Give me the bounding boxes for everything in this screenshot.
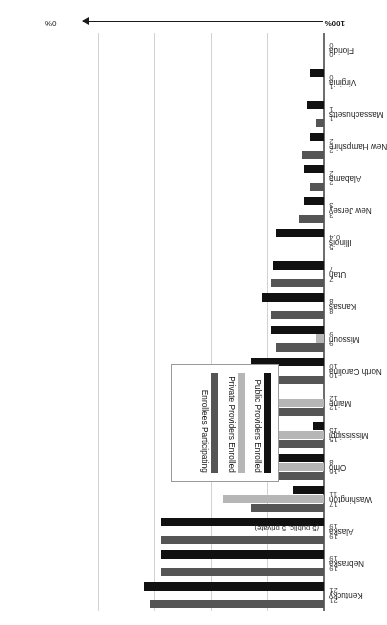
row-value-labels-column: 212119191919171116815151212101099887750.… [327,33,367,611]
category-label: New Jersey [329,206,372,214]
bar-row: New Hampshire [43,129,324,161]
legend-item-enrollees[interactable]: Enrollees Participating [201,373,218,473]
bar-row: New Jersey [43,194,324,226]
category-label: Kentucky [329,591,363,599]
bar-public [276,229,324,237]
bar-row: Kansas [43,290,324,322]
bar-enrollees [271,279,324,287]
bar-public [304,197,324,205]
category-label: Massachusetts [329,110,384,118]
bar-row: Massachusetts [43,97,324,129]
percent-axis-arrow [83,21,323,22]
legend-swatch-enrollees [211,373,218,473]
bar-row: Utah [43,258,324,290]
category-label: Washington [329,495,372,503]
category-label: Mississippi [329,431,369,439]
bar-public [271,326,324,334]
bar-public [313,422,324,430]
bar-public [161,550,324,558]
category-label: Virginia [329,77,356,85]
category-label: Florida [329,45,354,53]
bar-enrollees [251,504,324,512]
legend-swatch-private [238,373,245,473]
legend-swatch-public [264,373,271,473]
bar-public [293,486,324,494]
legend-label: Enrollees Participating [201,389,209,473]
bar-enrollees [150,600,324,608]
category-label: New Hampshire [329,142,387,150]
bar-row: Alabama [43,161,324,193]
bar-enrollees [316,119,324,127]
legend-label: Private Providers Enrolled [227,375,235,473]
chart-annotation: (5 public, 5 private) [254,524,319,533]
category-label: North Carolina [329,366,382,374]
category-label: Alabama [329,174,361,182]
bar-enrollees [161,568,324,576]
bar-public [304,165,324,173]
legend-item-public[interactable]: Public Providers Enrolled [254,373,271,473]
chart-legend: Public Providers EnrolledPrivate Provide… [171,364,279,482]
category-label: Kansas [329,302,356,310]
bar-public [307,101,324,109]
bar-enrollees [310,183,324,191]
percent-axis-min-label: 0% [45,19,57,28]
bar-row: Washington [43,483,324,515]
category-label: Illinois [329,238,352,246]
percent-axis: 100% 0% [45,13,345,29]
category-label: Maine [329,399,351,407]
legend-label: Public Providers Enrolled [254,378,262,473]
category-label: Utah [329,270,346,278]
bar-public [310,133,324,141]
bar-public [144,582,324,590]
bar-row: Illinois [43,226,324,258]
category-label: Nebraska [329,559,364,567]
bar-enrollees [299,215,324,223]
bar-public [262,293,324,301]
category-label: Alaska [329,527,354,535]
bar-row: Florida [43,33,324,65]
bar-private [316,334,324,342]
bar-enrollees [271,311,324,319]
bar-enrollees [302,151,324,159]
percent-axis-max-label: 100% [325,19,345,28]
bar-row: Nebraska [43,547,324,579]
bar-enrollees [273,472,324,480]
bar-public [310,69,324,77]
category-label: Missouri [329,334,359,342]
bar-private [223,495,324,503]
bar-public [273,261,324,269]
legend-item-private[interactable]: Private Providers Enrolled [227,373,244,473]
bar-enrollees [276,343,324,351]
bar-row: Virginia [43,65,324,97]
category-label: Ohio [329,463,346,471]
bar-row: Kentucky [43,579,324,611]
bar-enrollees [161,536,324,544]
bar-row: Missouri [43,322,324,354]
